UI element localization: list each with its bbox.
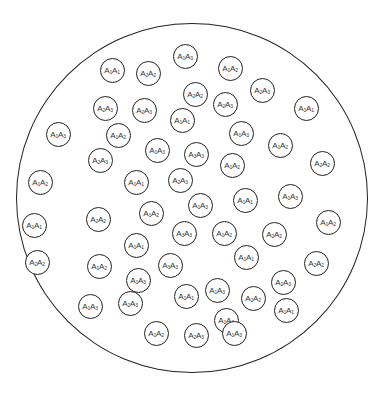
genotype-cell: A1A1 — [22, 213, 47, 238]
genotype-label: A2A3 — [122, 299, 137, 308]
genotype-cell: A1A2 — [220, 153, 245, 178]
genotype-cell: A2A2 — [310, 151, 335, 176]
genotype-label: A2A2 — [29, 258, 44, 267]
genotype-label: A1A2 — [272, 141, 287, 150]
genotype-label: A1A1 — [178, 292, 193, 301]
genotype-cell: A1A1 — [233, 188, 258, 213]
genotype-cell: A1A2 — [268, 133, 293, 158]
genotype-label: A1A3 — [50, 130, 65, 139]
genotype-label: A1A2 — [224, 161, 239, 170]
genotype-label: A1A2 — [222, 64, 237, 73]
genotype-label: A2A2 — [187, 90, 202, 99]
genotype-cell: A2A3 — [93, 96, 118, 121]
genotype-label: A2A3 — [188, 331, 203, 340]
genotype-cell: A2A3 — [184, 323, 209, 348]
genotype-cell: A1A1 — [274, 298, 299, 323]
genotype-label: A1A2 — [110, 131, 125, 140]
genotype-cell: A1A2 — [218, 56, 243, 81]
genotype-label: A2A3 — [97, 104, 112, 113]
genotype-label: A1A1 — [237, 196, 252, 205]
genotype-label: A3A3 — [162, 261, 177, 270]
genotype-cell: A2A3 — [271, 270, 296, 295]
genotype-label: A2A2 — [245, 294, 260, 303]
genotype-cell: A1A1 — [124, 233, 149, 258]
genotype-label: A2A3 — [92, 156, 107, 165]
genotype-label: A1A2 — [91, 262, 106, 271]
genotype-label: A2A3 — [254, 86, 269, 95]
genotype-label: A1A2 — [148, 329, 163, 338]
genotype-cell: A2A2 — [241, 286, 266, 311]
genotype-label: A3A3 — [188, 150, 203, 159]
genotype-label: A1A1 — [238, 253, 253, 262]
genotype-label: A1A2 — [32, 178, 47, 187]
genotype-label: A1A1 — [128, 178, 143, 187]
genotype-label: A2A2 — [314, 159, 329, 168]
genotype-cell: A1A1 — [234, 245, 259, 270]
genotype-label: A1A1 — [278, 306, 293, 315]
genotype-cell: A1A1 — [174, 284, 199, 309]
genotype-label: A3A3 — [176, 229, 191, 238]
genotype-cell: A1A2 — [106, 123, 131, 148]
genotype-cell: A1A3 — [46, 122, 71, 147]
genotype-label: A1A2 — [216, 229, 231, 238]
genotype-cell: A1A2 — [139, 201, 164, 226]
genotype-label: A2A3 — [136, 106, 151, 115]
genotype-label: A2A2 — [140, 69, 155, 78]
genotype-label: A1A3 — [177, 52, 192, 61]
genotype-label: A1A1 — [26, 221, 41, 230]
genotype-label: A1A3 — [130, 276, 145, 285]
genotype-cell: A2A2 — [25, 250, 50, 275]
genotype-label: A2A2 — [308, 259, 323, 268]
genotype-cell: A1A1 — [124, 170, 149, 195]
genotype-cell: A1A2 — [87, 254, 112, 279]
genotype-cell: A1A3 — [173, 44, 198, 69]
genotype-cell: A1A2 — [144, 321, 169, 346]
genotype-label: A2A2 — [90, 215, 105, 224]
genotype-label: A1A3 — [209, 286, 224, 295]
genotype-label: A1A3 — [192, 201, 207, 210]
genotype-cell: A1A1 — [294, 96, 319, 121]
genotype-cell: A2A2 — [304, 251, 329, 276]
genotype-cell: A1A3 — [145, 138, 170, 163]
genotype-cell: A1A3 — [205, 278, 230, 303]
genotype-label: A1A1 — [128, 241, 143, 250]
genotype-label: A2A2 — [266, 230, 281, 239]
genotype-cell: A2A2 — [86, 207, 111, 232]
genotype-cell: A2A2 — [183, 82, 208, 107]
genotype-label: A1A1 — [104, 66, 119, 75]
genotype-cell: A3A3 — [158, 253, 183, 278]
genotype-cell: A3A3 — [184, 142, 209, 167]
genotype-label: A1A3 — [282, 192, 297, 201]
genotype-cell: A1A3 — [229, 121, 254, 146]
genotype-cell: A1A3 — [78, 294, 103, 319]
genotype-cell: A1A1 — [170, 108, 195, 133]
genotype-cell: A1A3 — [278, 184, 303, 209]
genotype-label: A1A1 — [174, 116, 189, 125]
genotype-cell: A3A3 — [172, 221, 197, 246]
genotype-label: A1A3 — [233, 129, 248, 138]
genotype-cell: A1A2 — [316, 210, 341, 235]
genotype-label: A2A3 — [217, 100, 232, 109]
genotype-cell: A2A3 — [250, 78, 275, 103]
genotype-cell: A2A3 — [168, 168, 193, 193]
genotype-label: A1A3 — [149, 146, 164, 155]
genotype-cell: A1A2 — [212, 221, 237, 246]
genotype-cell: A2A2 — [136, 61, 161, 86]
genotype-cell: A1A2 — [28, 170, 53, 195]
genotype-label: A1A2 — [143, 209, 158, 218]
genotype-label: A1A1 — [298, 104, 313, 113]
genotype-label: A2A3 — [275, 278, 290, 287]
genotype-label: A1A2 — [320, 218, 335, 227]
genotype-cell: A2A3 — [132, 98, 157, 123]
genotype-cell: A2A2 — [262, 222, 287, 247]
genotype-label: A1A3 — [82, 302, 97, 311]
genotype-cell: A1A3 — [126, 268, 151, 293]
genotype-cell: A2A3 — [213, 92, 238, 117]
genotype-cell: A1A3 — [188, 193, 213, 218]
genotype-cell: A1A1 — [100, 58, 125, 83]
genotype-cell: A2A3 — [88, 148, 113, 173]
genotype-cell: A2A3 — [118, 291, 143, 316]
genotype-label: A2A3 — [172, 176, 187, 185]
genotype-label: A1A3 — [226, 329, 241, 338]
genotype-cell: A1A3 — [222, 321, 247, 346]
